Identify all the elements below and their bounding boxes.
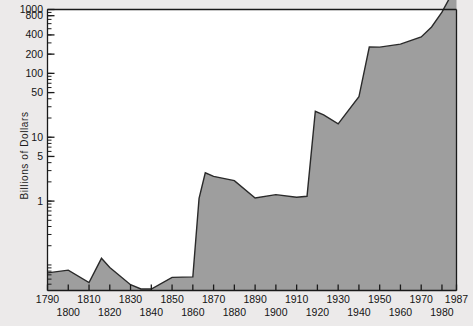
y-tick-label: 5 [4,151,43,161]
chart-plot-area [0,0,473,326]
x-tick-label: 1840 [134,307,168,318]
x-tick-label: 1987 [440,294,473,305]
x-tick-label: 1940 [342,307,376,318]
x-tick-label: 1810 [72,294,106,305]
x-tick-label: 1860 [176,307,210,318]
x-tick-label: 1790 [31,294,65,305]
y-tick-label: 200 [4,49,43,59]
x-tick-label: 1850 [155,294,189,305]
x-tick-label: 1910 [280,294,314,305]
x-tick-label: 1930 [321,294,355,305]
x-tick-label: 1950 [363,294,397,305]
x-tick-label: 1970 [404,294,438,305]
y-tick-label: 800 [4,10,43,20]
x-tick-label: 1870 [197,294,231,305]
y-tick-label: 10 [4,132,43,142]
y-tick-label: 1 [4,196,43,206]
x-tick-label: 1800 [51,307,85,318]
x-tick-label: 1820 [93,307,127,318]
x-tick-label: 1830 [114,294,148,305]
x-tick-label: 1880 [217,307,251,318]
y-tick-label: 100 [4,68,43,78]
chart-container: Billions of Dollars 10008004002001005010… [0,0,473,326]
x-tick-label: 1900 [259,307,293,318]
x-tick-label: 1960 [383,307,417,318]
x-tick-label: 1890 [238,294,272,305]
x-tick-label: 1920 [300,307,334,318]
y-tick-label: 50 [4,87,43,97]
x-tick-label: 1980 [425,307,459,318]
y-tick-label: 400 [4,29,43,39]
